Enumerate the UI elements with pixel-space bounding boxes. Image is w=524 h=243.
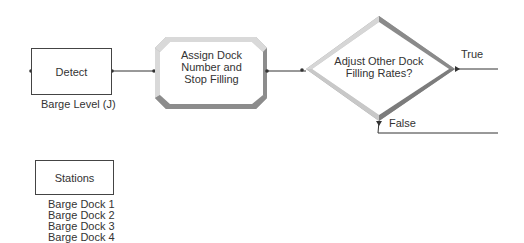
assign-output-port: [265, 69, 269, 73]
true-arrow-icon: [455, 66, 460, 72]
stations-label: Stations: [55, 172, 95, 184]
decide-input-port: [300, 68, 304, 72]
detect-caption: Barge Level (J): [41, 98, 116, 110]
assign-label-line-2: Number and: [160, 61, 263, 73]
station-item: Barge Dock 4: [48, 232, 115, 243]
true-branch-label: True: [461, 48, 483, 60]
assign-label-line-1: Assign Dock: [160, 49, 263, 61]
stations-list: Barge Dock 1 Barge Dock 2 Barge Dock 3 B…: [48, 199, 115, 243]
assign-label-line-3: Stop Filling: [160, 73, 263, 85]
false-branch-label: False: [389, 117, 416, 129]
decide-label-line-1: Adjust Other Dock: [318, 55, 440, 67]
false-arrow-icon: [376, 121, 382, 126]
decide-node-label: Adjust Other Dock Filling Rates?: [318, 55, 440, 79]
decide-label-line-2: Filling Rates?: [318, 67, 440, 79]
stations-node[interactable]: Stations: [35, 160, 114, 195]
detect-label: Detect: [56, 66, 88, 78]
assign-node-label: Assign Dock Number and Stop Filling: [160, 49, 263, 85]
detect-node[interactable]: Detect: [31, 48, 112, 95]
